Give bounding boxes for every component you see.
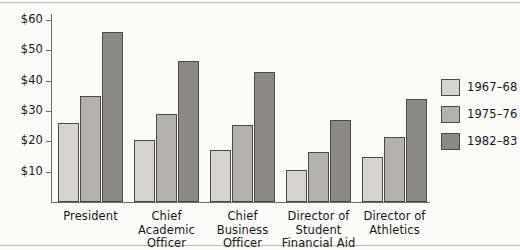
y-axis-tick-label: $40 — [3, 75, 43, 87]
y-axis-tick-label: $20 — [3, 135, 43, 147]
y-axis-tick — [46, 50, 51, 51]
bar — [384, 137, 405, 202]
bar — [406, 99, 427, 202]
legend-swatch — [441, 106, 460, 123]
category-label-line: Athletics — [335, 224, 455, 238]
bar — [232, 125, 253, 202]
bar-group — [362, 14, 433, 202]
y-axis-tick — [46, 111, 51, 112]
bar-group — [286, 14, 357, 202]
legend-swatch — [441, 133, 460, 150]
y-axis-line — [51, 14, 52, 202]
bar — [210, 150, 231, 202]
bar-group — [58, 14, 129, 202]
y-axis-tick — [46, 141, 51, 142]
category-label-line: Financial Aid — [259, 237, 379, 250]
bar — [134, 140, 155, 202]
bar — [58, 123, 79, 202]
legend-label: 1975–76 — [467, 107, 517, 121]
legend-swatch — [441, 79, 460, 96]
bar — [80, 96, 101, 202]
bar — [254, 72, 275, 202]
y-axis-tick-label: $30 — [3, 105, 43, 117]
x-axis-category-label: Director ofAthletics — [335, 210, 455, 237]
frame-top-rule — [0, 2, 520, 3]
y-axis-tick-label: $50 — [3, 44, 43, 56]
bar — [330, 120, 351, 202]
x-axis-line — [51, 202, 430, 203]
legend-label: 1967–68 — [467, 80, 517, 94]
bar — [156, 114, 177, 202]
y-axis-tick-label: $60 — [3, 14, 43, 26]
chart-page: $10$20$30$40$50$60 PresidentChiefAcademi… — [0, 0, 520, 250]
y-axis-tick — [46, 20, 51, 21]
plot-area — [51, 14, 430, 202]
bar — [102, 32, 123, 202]
bar — [362, 157, 383, 202]
bar-group — [134, 14, 205, 202]
category-label-line: Director of — [335, 210, 455, 224]
bar — [308, 152, 329, 202]
y-axis-tick — [46, 172, 51, 173]
bar — [286, 170, 307, 202]
bar-group — [210, 14, 281, 202]
y-axis-tick-label: $10 — [3, 166, 43, 178]
legend-label: 1982–83 — [467, 134, 517, 148]
bar — [178, 61, 199, 202]
y-axis-tick — [46, 81, 51, 82]
